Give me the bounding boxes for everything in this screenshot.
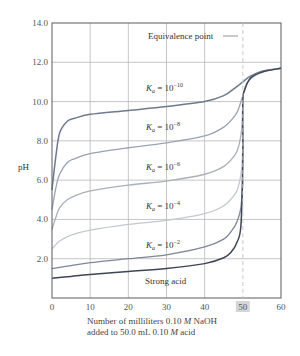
x-tick-label: 0 [50, 302, 55, 312]
curve-label: Strong acid [145, 276, 187, 286]
y-tick-label: 6.0 [37, 175, 49, 185]
x-axis-label-line1: Number of milliliters 0.10 M NaOH [87, 316, 217, 326]
curve-ka-10-4 [52, 141, 243, 249]
curve-label: Ka = 10−10 [145, 82, 183, 94]
curve-label: Ka = 10−4 [145, 200, 180, 212]
x-tick-label: 20 [124, 302, 134, 312]
y-tick-label: 8.0 [37, 136, 49, 146]
y-tick-label: 12.0 [32, 57, 48, 67]
curve-label: Ka = 10−6 [145, 161, 180, 173]
grid-lines [52, 23, 281, 298]
x-tick-label: 40 [200, 302, 210, 312]
y-tick-label: 2.0 [37, 254, 49, 264]
y-axis-ticks: 2.04.06.08.010.012.014.0 [32, 18, 48, 264]
y-tick-label: 14.0 [32, 18, 48, 28]
y-tick-label: 10.0 [32, 97, 48, 107]
x-axis-label-line2: added to 50.0 mL 0.10 M acid [87, 327, 196, 337]
x-tick-label: 50 [238, 302, 248, 312]
equivalence-annotation: Equivalence point [148, 23, 243, 298]
x-axis-ticks: 0102030405060 [50, 301, 286, 312]
x-tick-label: 30 [162, 302, 172, 312]
curve-label: Ka = 10−8 [145, 121, 180, 133]
y-axis-label: pH [18, 162, 30, 172]
x-tick-label: 10 [86, 302, 96, 312]
curve-label: Ka = 10−2 [145, 239, 180, 251]
titration-chart: 2.04.06.08.010.012.014.0 0102030405060 p… [0, 0, 300, 356]
y-tick-label: 4.0 [37, 214, 49, 224]
equivalence-label: Equivalence point [148, 31, 214, 41]
x-tick-label: 60 [277, 302, 287, 312]
